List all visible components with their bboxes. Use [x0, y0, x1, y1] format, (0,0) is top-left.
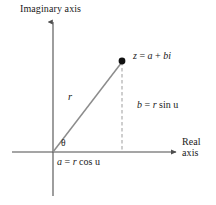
cosine-function: cos	[79, 156, 92, 167]
real-axis-label: Real axis	[182, 136, 201, 158]
imaginary-part-angle: u	[173, 99, 178, 110]
imaginary-part-label: b = r sin u	[137, 99, 178, 110]
radius-label: r	[68, 91, 72, 103]
sine-function: sin	[159, 99, 171, 110]
angle-theta-label: θ	[61, 138, 66, 149]
point-z-marker	[119, 58, 126, 65]
real-axis-label-line2: axis	[182, 147, 201, 158]
point-z-label: z = a + bi	[133, 50, 171, 61]
complex-plane-diagram: Imaginary axis Real axis z = a + bi r θ …	[0, 0, 216, 205]
point-z-imaginary-unit: i	[168, 50, 171, 61]
real-axis-label-line1: Real	[182, 136, 201, 147]
real-part-label: a = r cos u	[57, 156, 100, 167]
imaginary-axis-label: Imaginary axis	[20, 3, 81, 14]
real-part-angle: u	[95, 156, 100, 167]
diagram-canvas	[0, 0, 216, 205]
